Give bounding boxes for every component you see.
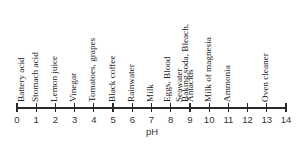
substance-label: Antacids	[186, 69, 195, 102]
substance-label: Rainwater	[127, 64, 136, 102]
substance-label: Battery acid	[17, 57, 26, 102]
tick-mark	[228, 103, 229, 112]
tick-label: 2	[45, 114, 65, 125]
tick-mark	[247, 103, 248, 112]
tick-label: 9	[180, 114, 200, 125]
tick-label: 12	[238, 114, 258, 125]
ph-scale-diagram: Battery acidStomach acidLemon juiceVineg…	[0, 0, 306, 145]
tick-label: 1	[26, 114, 46, 125]
tick-label: 3	[65, 114, 85, 125]
tick-mark	[151, 103, 152, 112]
tick-label: 4	[84, 114, 104, 125]
tick-label: 13	[257, 114, 277, 125]
substance-label: Stomach acid	[31, 52, 40, 102]
tick-mark	[36, 103, 37, 112]
tick-mark	[132, 103, 133, 112]
substance-label: Ammonia	[223, 65, 232, 102]
tick-mark	[266, 103, 267, 112]
tick-mark	[74, 103, 75, 112]
substance-label: Lemon juice	[50, 56, 59, 102]
tick-mark	[16, 103, 17, 112]
tick-mark	[112, 103, 113, 112]
tick-label: 7	[142, 114, 162, 125]
substance-label: Oven cleaner	[261, 53, 270, 102]
tick-label: 11	[218, 114, 238, 125]
tick-label: 14	[276, 114, 296, 125]
tick-mark	[170, 103, 171, 112]
tick-label: 0	[7, 114, 27, 125]
axis-title: pH	[146, 126, 158, 137]
substance-label: Milk of magnesia	[204, 37, 213, 102]
tick-label: 8	[161, 114, 181, 125]
tick-mark	[189, 103, 190, 112]
substance-label: Milk	[146, 84, 155, 102]
substance-label: Eggs, Blood	[163, 57, 172, 102]
tick-label: 5	[103, 114, 123, 125]
tick-mark	[55, 103, 56, 112]
tick-label: 6	[122, 114, 142, 125]
tick-label: 10	[199, 114, 219, 125]
substance-label: Vinegar	[69, 73, 78, 102]
tick-mark	[93, 103, 94, 112]
tick-mark	[209, 103, 210, 112]
substance-label: Black coffee	[108, 55, 117, 102]
substance-label: Tomatoes, grapes	[88, 38, 97, 102]
tick-mark	[285, 103, 286, 112]
